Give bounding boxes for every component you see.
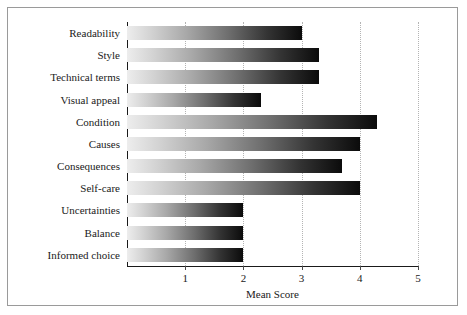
bar-condition (127, 115, 377, 129)
tick-mark-5 (418, 266, 419, 270)
bar-informed-choice (127, 248, 243, 262)
category-label-informed-choice: Informed choice (48, 246, 120, 264)
bar-self-care (127, 181, 360, 195)
plot-area: 12345 ReadabilityStyleTechnical termsVis… (127, 22, 418, 266)
x-axis-title: Mean Score (127, 288, 418, 300)
bar-row: Balance (127, 222, 418, 244)
bar-row: Technical terms (127, 66, 418, 88)
tick-mark-2 (243, 266, 244, 270)
category-label-condition: Condition (76, 113, 120, 131)
x-tick-label-4: 4 (357, 272, 363, 285)
x-tick-label-5: 5 (415, 272, 421, 285)
bar-uncertainties (127, 203, 243, 217)
bar-row: Condition (127, 111, 418, 133)
bar-row: Causes (127, 133, 418, 155)
bar-balance (127, 226, 243, 240)
x-tick-label-3: 3 (299, 272, 305, 285)
bar-row: Consequences (127, 155, 418, 177)
category-label-uncertainties: Uncertainties (61, 201, 120, 219)
tick-mark-3 (302, 266, 303, 270)
bar-visual-appeal (127, 93, 261, 107)
x-tick-label-1: 1 (182, 272, 188, 285)
gridline-5 (418, 22, 419, 266)
category-label-readability: Readability (69, 24, 120, 42)
category-label-causes: Causes (89, 135, 120, 153)
bar-row: Uncertainties (127, 199, 418, 221)
bar-row: Visual appeal (127, 89, 418, 111)
category-label-technical-terms: Technical terms (50, 68, 120, 86)
category-label-self-care: Self-care (80, 179, 120, 197)
bar-style (127, 48, 319, 62)
category-label-visual-appeal: Visual appeal (60, 91, 120, 109)
bar-technical-terms (127, 70, 319, 84)
bar-row: Self-care (127, 177, 418, 199)
figure-frame: 12345 ReadabilityStyleTechnical termsVis… (7, 7, 458, 306)
tick-mark-1 (185, 266, 186, 270)
x-axis-line (127, 266, 418, 267)
category-label-style: Style (97, 46, 120, 64)
bar-consequences (127, 159, 342, 173)
bar-readability (127, 26, 302, 40)
tick-mark-4 (360, 266, 361, 270)
category-label-consequences: Consequences (57, 157, 120, 175)
bar-causes (127, 137, 360, 151)
bar-row: Style (127, 44, 418, 66)
bar-row: Informed choice (127, 244, 418, 266)
bar-row: Readability (127, 22, 418, 44)
category-label-balance: Balance (85, 224, 120, 242)
x-tick-label-2: 2 (241, 272, 247, 285)
